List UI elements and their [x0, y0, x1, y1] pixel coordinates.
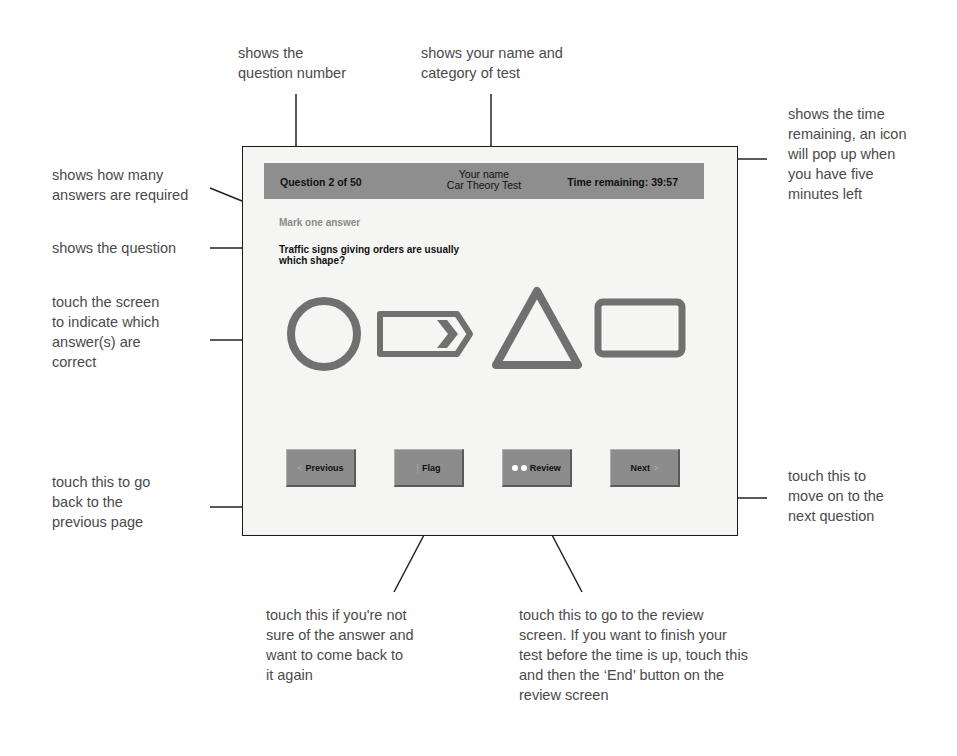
callout-next: touch this to move on to the next questi…: [788, 466, 884, 526]
callout-question-number: shows the question number: [238, 43, 346, 83]
callout-previous: touch this to go back to the previous pa…: [52, 472, 150, 532]
answer-triangle[interactable]: [489, 283, 585, 373]
callout-flag: touch this if you're not sure of the ans…: [266, 605, 414, 685]
dots-icon: [512, 463, 527, 473]
test-screen: Question 2 of 50 Your name Car Theory Te…: [242, 146, 738, 536]
previous-label: Previous: [306, 463, 344, 473]
header-bar: Question 2 of 50 Your name Car Theory Te…: [264, 163, 704, 199]
callout-time-remaining: shows the time remaining, an icon will p…: [788, 104, 907, 204]
callout-answers-required: shows how many answers are required: [52, 165, 188, 205]
callout-review: touch this to go to the review screen. I…: [519, 605, 748, 705]
next-label: Next: [631, 463, 651, 473]
flag-label: Flag: [422, 463, 441, 473]
answer-count-instruction: Mark one answer: [279, 217, 360, 228]
next-button[interactable]: Next >: [610, 449, 680, 487]
flag-button[interactable]: | Flag: [394, 449, 464, 487]
callout-touch-screen: touch the screen to indicate which answe…: [52, 292, 159, 372]
answer-chevron-rectangle[interactable]: [375, 309, 477, 359]
question-text: Traffic signs giving orders are usually …: [279, 244, 479, 266]
review-button[interactable]: Review: [502, 449, 572, 487]
flag-icon: |: [417, 463, 419, 473]
callout-shows-question: shows the question: [52, 238, 176, 258]
callout-name-category: shows your name and category of test: [421, 43, 563, 83]
arrow-left-icon: <: [297, 463, 302, 473]
review-label: Review: [530, 463, 561, 473]
previous-button[interactable]: < Previous: [286, 449, 356, 487]
answer-circle[interactable]: [285, 295, 363, 373]
answer-rectangle[interactable]: [593, 297, 687, 359]
arrow-right-icon: >: [653, 463, 658, 473]
time-remaining: Time remaining: 39:57: [567, 176, 678, 188]
